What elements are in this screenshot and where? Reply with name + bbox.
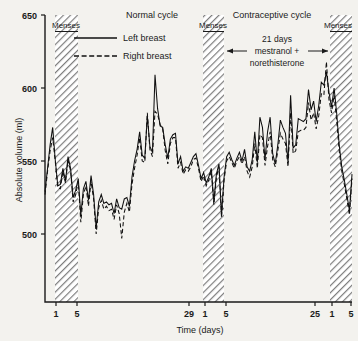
drug-name-line-1: mestranol + [255, 46, 300, 56]
menses-band-1-label: Menses [52, 21, 80, 30]
menses-band-2 [203, 15, 224, 302]
y-axis-tick-label: 650 [22, 11, 37, 21]
y-axis-tick-label: 500 [22, 230, 37, 240]
y-axis-tick-label: 600 [22, 84, 37, 94]
drug-duration-label: 21 days [262, 34, 292, 44]
y-axis-tick-label: 550 [22, 157, 37, 167]
header-contraceptive-cycle: Contraceptive cycle [233, 10, 312, 20]
x-axis-tick-label: 1 [202, 309, 207, 319]
menses-band-1 [55, 15, 78, 302]
figure-background [0, 0, 358, 341]
menses-band-2-label: Menses [199, 21, 227, 30]
absolute-volume-line-chart: 650600550500 1529152515 MensesMensesMens… [0, 0, 358, 341]
y-axis-title: Absolute volume (ml) [14, 118, 24, 203]
legend-label-right-breast: Right breast [123, 51, 172, 61]
header-normal-cycle: Normal cycle [126, 10, 178, 20]
x-axis-tick-label: 1 [329, 309, 334, 319]
x-axis-tick-label: 5 [348, 309, 353, 319]
x-axis-tick-label: 5 [74, 309, 79, 319]
x-axis-tick-label: 29 [184, 309, 194, 319]
drug-name-line-2: norethisterone [250, 58, 305, 68]
x-axis-title: Time (days) [176, 325, 223, 335]
x-axis-tick-label: 1 [53, 309, 58, 319]
menses-band-3-label: Menses [324, 21, 352, 30]
legend-label-left-breast: Left breast [123, 33, 166, 43]
x-axis-tick-label: 5 [223, 309, 228, 319]
x-axis-tick-label: 25 [310, 309, 320, 319]
